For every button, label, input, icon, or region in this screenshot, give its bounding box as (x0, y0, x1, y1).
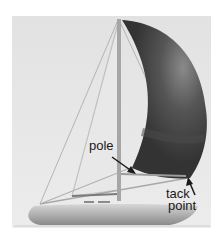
pole-label: pole (89, 140, 114, 152)
cabin-window (98, 201, 110, 203)
sailboat-illustration: pole tack point (0, 0, 224, 238)
cabin-window (84, 201, 94, 203)
mast (117, 19, 121, 201)
tack-point-label-line2: point (168, 200, 196, 212)
